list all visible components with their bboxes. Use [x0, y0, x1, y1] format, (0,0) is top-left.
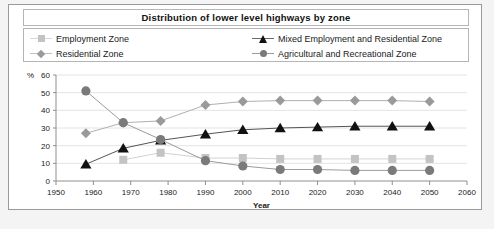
x-axis-title: Year	[253, 201, 270, 210]
data-point-square	[239, 154, 247, 162]
data-point-diamond	[156, 116, 166, 126]
x-axis-tick-label: 2060	[458, 188, 476, 197]
y-axis-tick-label: 40	[41, 106, 50, 115]
x-axis-tick-label: 1960	[84, 188, 102, 197]
data-point-circle	[238, 161, 247, 170]
plot-area: 0102030405060%19501960197019801990200020…	[9, 63, 483, 210]
data-point-circle	[156, 135, 165, 144]
chart-canvas: 0102030405060%19501960197019801990200020…	[9, 63, 483, 210]
legend-label-agricultural-recreational-zone: Agricultural and Recreational Zone	[278, 49, 417, 59]
x-axis-tick-label: 2020	[309, 188, 327, 197]
data-point-diamond	[313, 96, 323, 106]
legend-marker-circle	[252, 47, 274, 60]
data-point-circle	[81, 86, 90, 95]
data-point-square	[351, 155, 359, 163]
x-axis-tick-label: 2040	[383, 188, 401, 197]
legend-item-residential-zone[interactable]: Residential Zone	[30, 46, 129, 61]
data-point-diamond	[387, 96, 397, 106]
x-axis-tick-label: 2010	[271, 188, 289, 197]
x-axis-tick-label: 1950	[47, 188, 65, 197]
y-axis-tick-label: 0	[46, 177, 51, 186]
x-axis-tick-label: 1970	[122, 188, 140, 197]
data-point-circle	[388, 166, 397, 175]
data-point-circle	[313, 165, 322, 174]
data-point-circle	[119, 118, 128, 127]
chart-title-box: Distribution of lower level highways by …	[23, 9, 469, 26]
data-point-diamond	[238, 97, 248, 107]
data-point-square	[388, 155, 396, 163]
legend-marker-square	[30, 32, 52, 45]
chart-legend: Employment Zone Residential Zone	[23, 28, 469, 62]
legend-item-employment-zone[interactable]: Employment Zone	[30, 31, 129, 46]
legend-marker-triangle	[252, 32, 274, 45]
legend-column-left: Employment Zone Residential Zone	[30, 31, 129, 61]
data-point-diamond	[200, 100, 210, 110]
page-title: Distribution of lower level highways by …	[142, 12, 351, 23]
y-axis-tick-label: 30	[41, 124, 50, 133]
data-point-circle	[201, 156, 210, 165]
x-axis-tick-label: 2000	[234, 188, 252, 197]
data-point-circle	[276, 165, 285, 174]
chart-frame: Distribution of lower level highways by …	[8, 4, 482, 210]
data-point-diamond	[275, 96, 285, 106]
data-point-circle	[425, 166, 434, 175]
legend-item-mixed-employment-residential-zone[interactable]: Mixed Employment and Residential Zone	[252, 31, 442, 46]
legend-item-agricultural-recreational-zone[interactable]: Agricultural and Recreational Zone	[252, 46, 442, 61]
legend-label-mixed-employment-residential-zone: Mixed Employment and Residential Zone	[278, 34, 442, 44]
data-point-square	[314, 155, 322, 163]
data-point-square	[119, 156, 127, 164]
y-axis-tick-label: 50	[41, 89, 50, 98]
x-axis-tick-label: 1990	[197, 188, 215, 197]
y-axis-tick-label: 10	[41, 159, 50, 168]
x-axis-tick-label: 2030	[346, 188, 364, 197]
y-axis-unit-label: %	[27, 71, 34, 80]
legend-label-employment-zone: Employment Zone	[56, 34, 129, 44]
y-axis-tick-label: 20	[41, 142, 50, 151]
data-point-diamond	[81, 128, 91, 138]
data-point-diamond	[425, 97, 435, 107]
y-axis-tick-label: 60	[41, 71, 50, 80]
data-point-square	[157, 149, 165, 157]
data-point-square	[426, 155, 434, 163]
legend-label-residential-zone: Residential Zone	[56, 49, 124, 59]
legend-marker-diamond	[30, 47, 52, 60]
chart-screenshot: Distribution of lower level highways by …	[0, 0, 494, 229]
x-axis-tick-label: 1980	[159, 188, 177, 197]
x-axis-tick-label: 2050	[421, 188, 439, 197]
data-point-diamond	[350, 96, 360, 106]
data-point-square	[276, 155, 284, 163]
data-point-circle	[350, 166, 359, 175]
legend-column-right: Mixed Employment and Residential Zone Ag…	[252, 31, 442, 61]
